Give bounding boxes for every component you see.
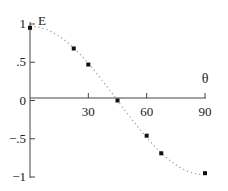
x-tick-label: 90	[199, 104, 212, 119]
y-tick-label: −.5	[9, 131, 26, 146]
x-tick-label: 30	[82, 104, 95, 119]
y-axis-label: E	[38, 13, 46, 28]
y-tick-label: .5	[16, 54, 26, 69]
data-point	[72, 46, 76, 50]
y-tick-label: 1	[20, 16, 27, 31]
x-axis-label: θ	[202, 71, 209, 86]
data-point	[159, 151, 163, 155]
data-point	[86, 63, 90, 67]
data-point	[28, 26, 32, 30]
chart-container: 1.50−.5−1306090Eθ	[0, 0, 228, 191]
y-tick-label: −1	[12, 169, 26, 184]
data-point	[203, 171, 207, 175]
data-point	[116, 99, 120, 103]
chart: 1.50−.5−1306090Eθ	[0, 0, 228, 191]
x-tick-label: 60	[140, 104, 153, 119]
data-point	[145, 134, 149, 138]
y-tick-label: 0	[20, 93, 27, 108]
